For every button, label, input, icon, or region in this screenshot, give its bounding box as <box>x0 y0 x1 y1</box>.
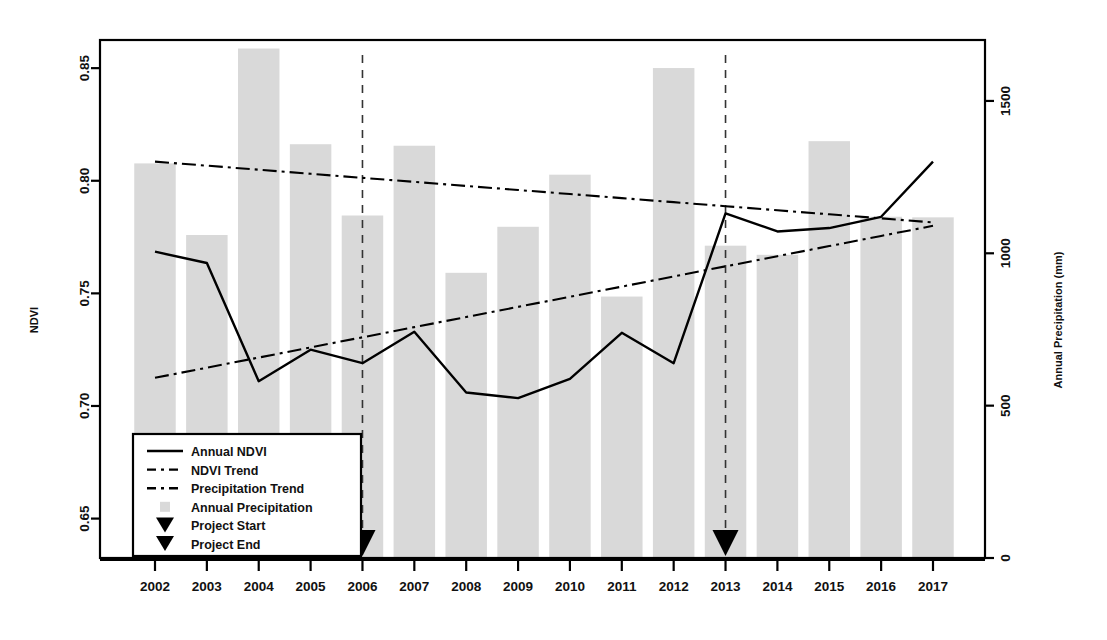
x-tick-label: 2015 <box>814 579 845 594</box>
x-tick-label: 2017 <box>918 579 948 594</box>
y2-tick-label: 500 <box>998 394 1013 417</box>
x-tick-label: 2006 <box>347 579 378 594</box>
legend-label: Annual Precipitation <box>191 501 313 515</box>
x-tick-label: 2002 <box>140 579 170 594</box>
y-tick-label: 0.75 <box>77 280 92 307</box>
y-tick-label: 0.85 <box>77 55 92 82</box>
precipitation-bar <box>757 255 798 558</box>
x-tick-label: 2008 <box>451 579 482 594</box>
x-tick-label: 2003 <box>192 579 223 594</box>
x-tick-label: 2012 <box>659 579 689 594</box>
precipitation-bar <box>809 141 850 558</box>
y-tick-label: 0.80 <box>77 168 92 194</box>
legend-label: Annual NDVI <box>191 445 267 459</box>
legend-label: Project Start <box>191 519 266 533</box>
x-tick-label: 2005 <box>296 579 327 594</box>
legend-label: NDVI Trend <box>191 464 258 478</box>
legend-label: Project End <box>191 538 260 552</box>
x-tick-label: 2016 <box>866 579 897 594</box>
chart-legend: Annual NDVINDVI TrendPrecipitation Trend… <box>133 434 361 556</box>
y2-tick-label: 1500 <box>998 86 1013 116</box>
ndvi-precipitation-chart: 0.650.700.750.800.85 050010001500 200220… <box>0 0 1107 640</box>
y2-tick-label: 0 <box>998 554 1013 562</box>
x-tick-label: 2009 <box>503 579 533 594</box>
precipitation-bar <box>653 68 694 558</box>
chart-root: 0.650.700.750.800.85 050010001500 200220… <box>0 0 1107 640</box>
y-axis-label-precipitation: Annual Precipitation (mm) <box>1052 251 1064 388</box>
x-tick-label: 2011 <box>607 579 637 594</box>
precipitation-bar <box>912 217 953 558</box>
y-tick-label: 0.65 <box>77 505 92 532</box>
x-tick-label: 2007 <box>399 579 429 594</box>
y-axis-label-ndvi: NDVI <box>28 307 40 333</box>
x-tick-label: 2014 <box>762 579 793 594</box>
precipitation-bar <box>394 146 435 558</box>
precipitation-bar <box>601 297 642 558</box>
x-tick-label: 2004 <box>244 579 275 594</box>
x-tick-label: 2010 <box>555 579 585 594</box>
legend-symbol-gray-square <box>160 502 170 512</box>
y2-tick-label: 1000 <box>998 238 1013 268</box>
legend-label: Precipitation Trend <box>191 482 304 496</box>
y-tick-label: 0.70 <box>77 393 92 419</box>
x-tick-label: 2013 <box>711 579 742 594</box>
precipitation-bar <box>860 217 901 558</box>
precipitation-bar <box>445 273 486 558</box>
